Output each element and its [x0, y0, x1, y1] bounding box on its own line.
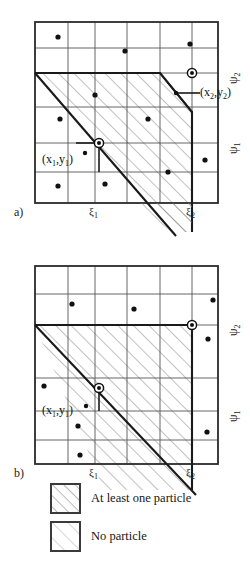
panel-b-label-x1y1: (x1,y1) — [42, 403, 73, 419]
legend-swatch-hatch-dark — [50, 483, 81, 514]
tick-dot-x2y2-a — [174, 91, 178, 95]
particle — [41, 383, 46, 388]
legend-label-no-particle: No particle — [91, 529, 147, 544]
particle — [75, 423, 80, 428]
panel-a-ytick-psi2: ψ2 — [226, 72, 242, 84]
particle — [102, 181, 107, 186]
particle — [131, 306, 136, 311]
particle — [55, 183, 60, 188]
panel-b-ytick-psi1: ψ1 — [226, 410, 242, 422]
hatch-overflow-a — [132, 203, 192, 232]
particle — [55, 34, 60, 39]
panel-b-xtick-xi1: ξ1 — [89, 466, 98, 481]
panel-a-xtick-xi2: ξ2 — [186, 205, 195, 220]
panel-a-label: a) — [14, 205, 23, 220]
panel-b: b) ξ1 ξ2 ψ2 ψ1 (x1,y1) — [0, 255, 250, 505]
particle — [122, 48, 127, 53]
particle — [210, 297, 215, 302]
panel-a-label-x2y2: (x2,y2) — [200, 85, 231, 101]
panel-b-canvas — [0, 255, 250, 505]
tick-dot-x1y1-a — [83, 151, 87, 155]
particle — [187, 41, 192, 46]
particle — [202, 157, 207, 162]
tick-dot-x1y1-b — [84, 404, 88, 408]
legend-item-no-particle: No particle — [50, 521, 147, 552]
panel-b-ytick-psi2: ψ2 — [226, 324, 242, 336]
figure-root: a) ξ1 ξ2 ψ2 ψ1 (x2,y2) (x1,y1) — [0, 0, 250, 561]
particle — [145, 116, 150, 121]
legend-swatch-hatch-light — [50, 521, 81, 552]
legend-label-at-least-one-particle: At least one particle — [91, 491, 191, 506]
marker-x1y1-b — [94, 383, 103, 392]
marker-x1y1-a — [94, 138, 103, 147]
particle — [165, 169, 170, 174]
panel-a-canvas — [0, 0, 250, 245]
particle — [204, 429, 209, 434]
marker-x2y2-a — [187, 68, 196, 77]
panel-a-ytick-psi1: ψ1 — [226, 142, 242, 154]
particle — [205, 336, 210, 341]
panel-b-label: b) — [14, 466, 24, 481]
panel-a-label-x1y1: (x1,y1) — [42, 152, 73, 168]
panel-b-xtick-xi2: ξ2 — [186, 466, 195, 481]
particle — [69, 301, 74, 306]
panel-a: a) ξ1 ξ2 ψ2 ψ1 (x2,y2) (x1,y1) — [0, 0, 250, 245]
particle — [77, 452, 82, 457]
panel-a-xtick-xi1: ξ1 — [89, 205, 98, 220]
particle — [92, 92, 97, 97]
particle — [57, 116, 62, 121]
marker-x2y2-b — [187, 320, 196, 329]
legend-item-at-least-one-particle: At least one particle — [50, 483, 191, 514]
connector-x1y1-a — [76, 143, 99, 172]
